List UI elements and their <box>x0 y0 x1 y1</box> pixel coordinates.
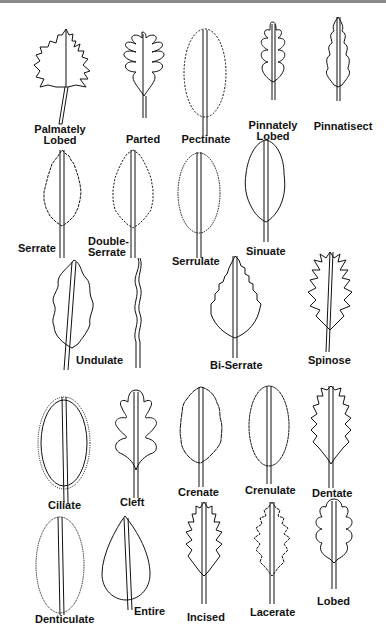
crenulate-leaf-icon <box>245 384 293 489</box>
label-palmately-lobed: Palmately Lobed <box>20 124 100 146</box>
label-crenate: Crenate <box>178 487 238 498</box>
pectinate-leaf-icon <box>180 28 230 138</box>
label-incised: Incised <box>187 612 247 623</box>
lobed-leaf-icon <box>308 497 360 592</box>
label-crenulate: Crenulate <box>245 485 305 496</box>
label-ciliate: Ciliate <box>48 500 108 511</box>
denticulate-leaf-icon <box>34 515 89 620</box>
label-undulate: Undulate <box>76 355 136 366</box>
pinnatisect-leaf-icon <box>312 15 362 115</box>
spinose-leaf-icon <box>300 250 360 360</box>
crenate-leaf-icon <box>175 385 227 495</box>
label-lacerate: Lacerate <box>250 607 310 618</box>
bi-serrate-leaf-icon <box>205 254 267 364</box>
parted-leaf-icon <box>108 30 178 125</box>
dentate-leaf-icon <box>305 384 357 494</box>
label-double-serrate: Double- Serrate <box>88 236 143 258</box>
label-pinnatisect: Pinnatisect <box>308 121 378 132</box>
sinuate-leaf-icon <box>240 138 290 248</box>
undulate-profile-icon <box>126 256 146 371</box>
label-pectinate: Pectinate <box>175 134 237 145</box>
label-lobed: Lobed <box>317 596 367 607</box>
pinnately-lobed-leaf-icon <box>248 20 298 120</box>
cleft-leaf-icon <box>104 388 164 503</box>
serrulate-leaf-icon <box>175 148 225 263</box>
label-denticulate: Denticulate <box>35 614 115 625</box>
label-serrate: Serrate <box>18 243 68 254</box>
ciliate-leaf-icon <box>36 393 96 508</box>
lacerate-leaf-icon <box>246 500 298 610</box>
label-cleft: Cleft <box>120 497 170 508</box>
incised-leaf-icon <box>178 500 230 610</box>
label-parted: Parted <box>108 134 178 145</box>
top-border <box>0 0 386 3</box>
entire-leaf-icon <box>100 514 155 614</box>
label-entire: Entire <box>134 606 184 617</box>
label-spinose: Spinose <box>308 355 368 366</box>
palmately-lobed-leaf-icon <box>28 27 98 127</box>
label-bi-serrate: Bi-Serrate <box>210 360 280 371</box>
